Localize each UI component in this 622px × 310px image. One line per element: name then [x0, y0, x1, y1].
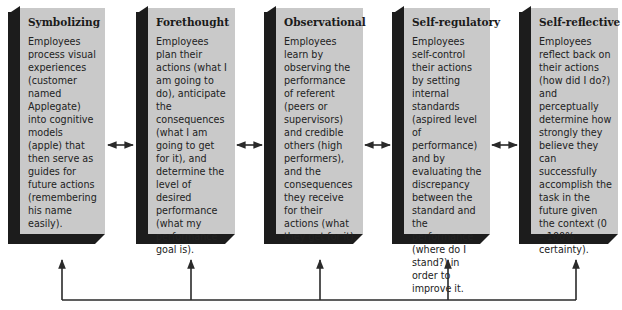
connectors	[0, 0, 622, 310]
feedback-loop	[62, 260, 576, 300]
